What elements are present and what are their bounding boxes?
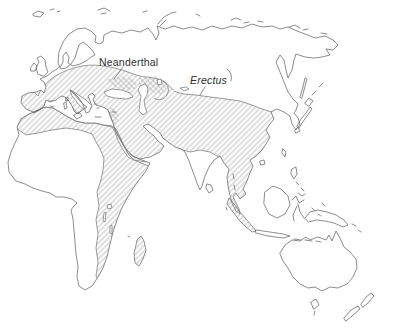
lake-baikal bbox=[227, 69, 232, 81]
erectus-leader-line bbox=[200, 87, 205, 95]
coastline-sulawesi-moluccas bbox=[292, 196, 325, 221]
coastline-tasmania bbox=[311, 299, 319, 315]
range-map: Neanderthal Erectus bbox=[0, 0, 395, 333]
coastline-sumatra bbox=[227, 198, 256, 232]
coastline-newguinea bbox=[305, 210, 361, 232]
lake-balkhash bbox=[180, 87, 189, 91]
coastline-borneo bbox=[264, 186, 290, 218]
coastline-australia bbox=[280, 231, 357, 291]
coastline-taiwan-hainan bbox=[260, 149, 286, 165]
coastline-britain bbox=[31, 56, 48, 76]
coastline-newzealand bbox=[344, 293, 374, 321]
arctic-islands bbox=[33, 8, 327, 34]
comoros-dash bbox=[128, 236, 130, 237]
coastline-layer bbox=[8, 8, 374, 321]
coastline-madagascar bbox=[134, 236, 146, 266]
neanderthal-label: Neanderthal bbox=[99, 56, 158, 68]
lake-victoria bbox=[107, 204, 112, 209]
erectus-label: Erectus bbox=[190, 74, 228, 86]
coastline-srilanka bbox=[206, 184, 213, 193]
map-canvas: Neanderthal Erectus bbox=[0, 0, 395, 333]
lake-malawi bbox=[110, 225, 112, 234]
aral-sea bbox=[157, 79, 162, 85]
coastline-philippines bbox=[291, 167, 305, 196]
coastline-java-sundas bbox=[256, 230, 321, 242]
